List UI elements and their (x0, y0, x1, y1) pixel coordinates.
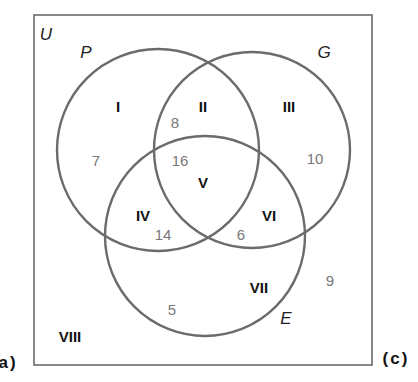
side-label-right: (c) (383, 350, 410, 367)
region-label-IV: IV (136, 208, 150, 223)
region-label-II: II (199, 99, 207, 114)
count-region-VII: 5 (168, 302, 176, 317)
count-region-III: 10 (307, 151, 324, 166)
region-label-VI: VI (262, 208, 276, 223)
count-region-I: 7 (92, 153, 100, 168)
set-label-E: E (280, 310, 291, 327)
region-label-V: V (198, 175, 208, 190)
venn-diagram-canvas (0, 0, 418, 382)
region-label-VII: VII (250, 280, 268, 295)
count-region-VIII: 9 (326, 273, 334, 288)
region-label-VIII: VIII (59, 329, 82, 344)
universe-label: U (40, 26, 52, 43)
circle-P (57, 49, 259, 251)
set-label-P: P (80, 44, 91, 61)
count-region-V: 16 (172, 153, 189, 168)
count-region-II: 8 (171, 115, 179, 130)
set-label-G: G (317, 44, 330, 61)
side-label-left: a) (0, 354, 18, 371)
region-label-I: I (116, 99, 120, 114)
count-region-IV: 14 (155, 227, 172, 242)
region-label-III: III (283, 99, 296, 114)
count-region-VI: 6 (237, 227, 245, 242)
